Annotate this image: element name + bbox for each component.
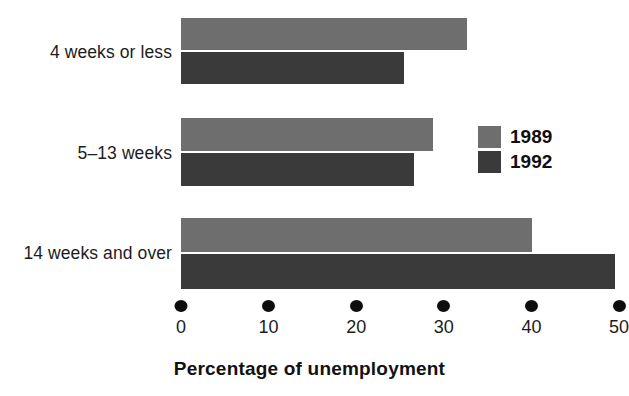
x-axis-tick-label: 20 [346, 318, 366, 336]
tick-dot-icon [437, 300, 450, 312]
tick-dot-icon [613, 300, 626, 312]
x-axis-tick-50: 50 [609, 300, 629, 336]
tick-dot-icon [262, 300, 275, 312]
bar-1992-4-weeks-or-less [181, 52, 404, 84]
x-axis-tick-10: 10 [259, 300, 279, 336]
x-axis-tick-label: 0 [175, 318, 188, 336]
x-axis: 01020304050 [181, 300, 619, 350]
plot-area [181, 0, 619, 300]
tick-dot-icon [175, 300, 188, 312]
category-label-5-13-weeks: 5–13 weeks [78, 145, 172, 163]
x-axis-tick-label: 40 [521, 318, 541, 336]
category-label-14-weeks-and-over: 14 weeks and over [23, 245, 172, 263]
x-axis-tick-30: 30 [434, 300, 454, 336]
bar-1992-5-13-weeks [181, 153, 414, 186]
legend-item-1989: 1989 [478, 124, 552, 149]
legend-swatch-1989 [478, 126, 501, 148]
x-axis-tick-label: 10 [259, 318, 279, 336]
legend: 1989 1992 [478, 124, 552, 174]
legend-item-1992: 1992 [478, 149, 552, 174]
x-axis-title: Percentage of unemployment [0, 358, 619, 380]
x-axis-tick-20: 20 [346, 300, 366, 336]
bar-1989-4-weeks-or-less [181, 18, 467, 50]
bar-1992-14-weeks-and-over [181, 254, 615, 289]
x-axis-tick-label: 30 [434, 318, 454, 336]
category-label-4-weeks-or-less: 4 weeks or less [50, 44, 172, 62]
legend-label-1989: 1989 [510, 127, 552, 146]
x-axis-tick-0: 0 [175, 300, 188, 336]
x-axis-tick-40: 40 [521, 300, 541, 336]
bar-1989-5-13-weeks [181, 118, 433, 151]
x-axis-tick-label: 50 [609, 318, 629, 336]
bar-1989-14-weeks-and-over [181, 218, 532, 252]
legend-swatch-1992 [478, 151, 501, 173]
legend-label-1992: 1992 [510, 152, 552, 171]
tick-dot-icon [350, 300, 363, 312]
tick-dot-icon [525, 300, 538, 312]
